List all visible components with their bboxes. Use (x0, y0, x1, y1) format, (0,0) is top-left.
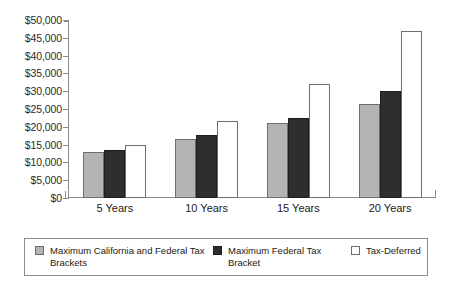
legend-item-max-california-and-federal: Maximum California and Federal Tax Brack… (35, 245, 213, 269)
legend-swatch-icon (35, 246, 44, 255)
bar (267, 123, 288, 198)
y-tick-label: $35,000 (25, 68, 62, 79)
y-axis-tick-labels: $50,000 $45,000 $40,000 $35,000 $30,000 … (0, 0, 62, 232)
bar-chart: $50,000 $45,000 $40,000 $35,000 $30,000 … (0, 0, 452, 289)
y-axis-tick-mark (63, 20, 69, 21)
bar-group (175, 20, 238, 198)
plot-area: $50,000 $45,000 $40,000 $35,000 $30,000 … (0, 0, 452, 232)
bar (359, 104, 380, 198)
bar (217, 121, 238, 198)
y-tick-label: $45,000 (25, 33, 62, 44)
y-tick-label: $50,000 (25, 15, 62, 26)
bar-group (83, 20, 146, 198)
x-tick-label: 10 Years (185, 202, 228, 215)
y-tick-label: $20,000 (25, 122, 62, 133)
bar (196, 135, 217, 198)
y-axis-tick-mark (63, 109, 69, 110)
y-axis-tick-mark (63, 38, 69, 39)
bar (380, 91, 401, 198)
bar (125, 145, 146, 198)
x-tick-label: 20 Years (369, 202, 412, 215)
y-axis-tick-mark (63, 180, 69, 181)
y-tick-label: $40,000 (25, 50, 62, 61)
legend-label: Tax-Deferred (366, 245, 421, 257)
bars-layer (69, 20, 436, 198)
y-axis-tick-mark (63, 73, 69, 74)
legend-item-max-federal: Maximum Federal Tax Bracket (213, 245, 351, 269)
bar (175, 139, 196, 198)
y-axis-tick-mark (63, 127, 69, 128)
y-tick-label: $30,000 (25, 86, 62, 97)
bar-group (359, 20, 422, 198)
y-tick-label: $15,000 (25, 139, 62, 150)
y-axis-tick-mark (63, 145, 69, 146)
x-tick-label: 5 Years (97, 202, 134, 215)
y-tick-label: $25,000 (25, 104, 62, 115)
bar (83, 152, 104, 198)
y-tick-label: $5,000 (30, 175, 62, 186)
x-axis-category-labels: 5 Years 10 Years 15 Years 20 Years (69, 202, 436, 220)
bar (288, 118, 309, 198)
y-tick-label: $10,000 (25, 157, 62, 168)
y-axis-tick-mark (63, 56, 69, 57)
x-axis-left-cap (65, 191, 66, 198)
legend-swatch-icon (213, 246, 222, 255)
y-tick-label: $0 (51, 193, 62, 204)
legend-label: Maximum Federal Tax Bracket (228, 245, 351, 269)
bar (401, 31, 422, 198)
chart-legend: Maximum California and Federal Tax Brack… (24, 238, 428, 276)
legend-swatch-icon (351, 246, 360, 255)
legend-item-tax-deferred: Tax-Deferred (351, 245, 421, 257)
y-axis-tick-mark (63, 91, 69, 92)
bar (104, 150, 125, 198)
bar-group (267, 20, 330, 198)
bar (309, 84, 330, 198)
legend-label: Maximum California and Federal Tax Brack… (50, 245, 213, 269)
y-axis-tick-mark (63, 162, 69, 163)
x-tick-label: 15 Years (277, 202, 320, 215)
y-axis-tick-mark (63, 198, 69, 199)
